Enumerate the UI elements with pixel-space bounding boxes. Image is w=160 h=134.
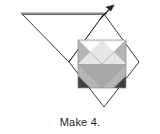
figure-caption: Make 4. [0,116,160,129]
figure-container: Make 4. [0,0,160,134]
quilt-block-diagram [0,0,160,134]
inner-pieced-square [78,40,126,88]
